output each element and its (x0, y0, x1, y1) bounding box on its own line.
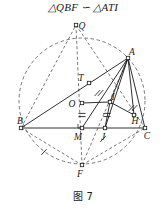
vertex-label-A: A (128, 47, 135, 57)
figure-page: △QBF ∽ △ATI QATIOBMJHCF 图 7 (0, 0, 166, 213)
segment-AJ (105, 58, 128, 128)
figure-caption: 图 7 (0, 188, 166, 203)
point-marker-Q (74, 23, 77, 26)
segment-FC (82, 128, 145, 165)
vertex-label-C: C (144, 131, 151, 141)
similarity-statement: △QBF ∽ △ATI (0, 1, 166, 14)
segment-BF (21, 128, 82, 165)
vertex-label-F: F (76, 169, 83, 179)
point-marker-C (143, 126, 146, 129)
vertex-labels-group: QATIOBMJHCF (17, 21, 151, 179)
segment-OI (82, 102, 110, 103)
vertex-label-B: B (17, 116, 23, 126)
vertex-label-M: M (73, 132, 83, 142)
dashed-segments-group (21, 25, 145, 165)
vertex-label-I: I (110, 92, 115, 102)
vertex-label-Q: Q (79, 21, 86, 31)
vertex-label-H: H (131, 116, 140, 126)
vertex-label-T: T (78, 73, 84, 83)
point-marker-T (87, 81, 90, 84)
point-marker-O (80, 101, 83, 104)
point-marker-F (80, 163, 83, 166)
tick-marks-group (42, 90, 137, 154)
circle-geometry-diagram: QATIOBMJHCF (0, 14, 166, 189)
point-marker-M (80, 126, 83, 129)
point-marker-J (103, 126, 106, 129)
segment-BQ (21, 25, 76, 128)
point-marker-B (19, 126, 22, 129)
segment-QF (76, 25, 82, 165)
vertex-label-O: O (69, 99, 76, 109)
